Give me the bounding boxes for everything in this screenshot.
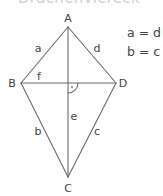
diagonal-f-label: f	[37, 71, 41, 82]
vertex-c-label: C	[64, 183, 72, 194]
side-d-label: d	[94, 43, 101, 54]
right-angle-dot-icon	[71, 86, 73, 88]
side-c-label: c	[94, 126, 100, 137]
equation-a-equals-d: a = d	[127, 27, 161, 40]
vertex-d-label: D	[119, 78, 127, 89]
side-c	[68, 83, 116, 177]
right-angle-arc-icon	[68, 83, 78, 93]
side-b-label: b	[35, 126, 42, 137]
side-a-label: a	[35, 43, 42, 54]
side-d	[68, 27, 116, 83]
equation-b-equals-c: b = c	[127, 46, 160, 59]
diagonal-e-label: e	[71, 111, 78, 122]
side-a	[21, 27, 68, 83]
vertex-a-label: A	[64, 13, 72, 24]
side-b	[21, 83, 68, 177]
vertex-b-label: B	[8, 78, 16, 89]
